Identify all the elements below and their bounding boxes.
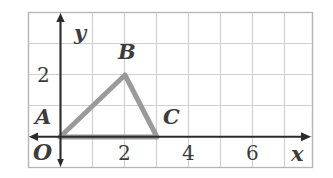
vertex-label-a: A xyxy=(35,106,51,127)
y-tick-label-2: 2 xyxy=(37,65,50,85)
grid-lines xyxy=(28,12,313,168)
y-axis-arrow-down xyxy=(57,159,64,167)
grid-border xyxy=(29,13,313,168)
x-axis-label: x xyxy=(291,143,304,164)
vertex-label-b: B xyxy=(118,41,136,62)
origin-label: O xyxy=(33,141,52,163)
x-tick-label-4: 4 xyxy=(182,143,195,163)
x-axis xyxy=(29,132,311,141)
y-axis-arrow-up xyxy=(56,13,64,22)
x-axis-arrow-right xyxy=(301,132,311,141)
coordinate-grid-figure: y x O 2 2 4 6 A B C xyxy=(0,0,333,178)
y-axis xyxy=(56,13,64,167)
y-axis-label: y xyxy=(74,22,86,43)
x-tick-label-2: 2 xyxy=(118,143,131,163)
vertex-label-c: C xyxy=(163,106,180,127)
x-tick-label-6: 6 xyxy=(246,143,259,163)
